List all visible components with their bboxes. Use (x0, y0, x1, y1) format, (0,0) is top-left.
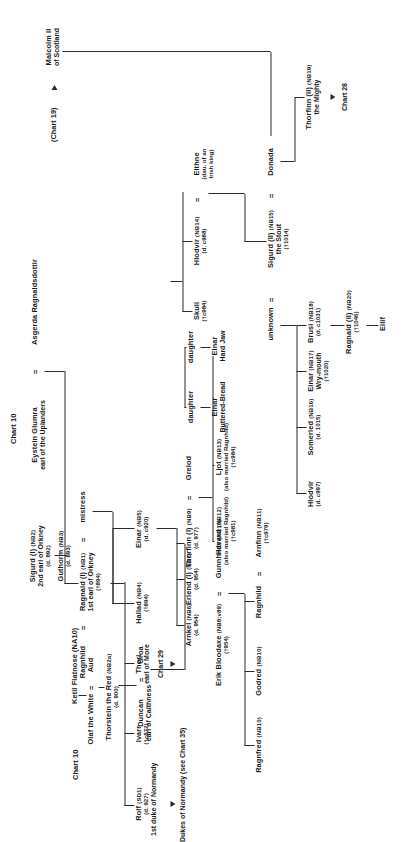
marriage-eq-olaf: = (86, 686, 95, 690)
person-sigurd-1: Sigurd (I) (NB2) 2nd earl of Orkney (d. … (28, 518, 51, 594)
person-brusi: Brusi (NB18) (d. c1031) (306, 292, 321, 352)
person-hlodvir-997: Hlodvir (d. c997) (306, 464, 321, 524)
marriage-eq-donada: = (266, 194, 275, 198)
marriage-eq-ragnhild2: = (254, 572, 263, 576)
person-arnfinn: Arnfinn (NB11) (†c979) (254, 500, 269, 566)
person-aud: Aud (86, 650, 94, 680)
person-sigurd-ii: Sigurd (II) (NB15) the Stout (†1014) (266, 202, 289, 276)
person-havard: Havard (NB12) (also married Ragnhild) (†… (214, 488, 236, 574)
person-skuli: Skuli (†c984) (192, 284, 207, 338)
person-eystein: Eystein Glumra earl of the Uplanders (30, 380, 46, 490)
arrow-right-icon-chart19 (51, 85, 57, 90)
person-grelod: Grelod (184, 446, 192, 490)
person-daughter-1: daughter (186, 380, 194, 434)
marriage-eq-mistress: = (78, 538, 87, 542)
person-asgerda: Asgerda Ragnaldsdottir (30, 242, 38, 362)
person-hallad: Hallad (NB4) (†894) (134, 572, 149, 634)
person-somerled: Somerled (NB16) (d. 1015) (306, 392, 321, 462)
person-eilif: Eilif (378, 304, 386, 344)
marriage-eq-erik: = (214, 592, 223, 596)
person-donada: Donada (266, 138, 274, 186)
chart-ref-chart10-left: Chart 10 (70, 750, 79, 780)
person-rolf: Rolf (SD1) (d. 927) 1st duke of Normandy (134, 772, 157, 836)
person-groa: Groa (136, 638, 144, 672)
person-thorstein-red: Thorstein the Red (NB2a) (d. 900) (104, 652, 119, 742)
marriage-eq-ragnhild0: = (78, 626, 87, 630)
person-olaf-white: Olaf the White (86, 690, 94, 748)
person-ragnfred: Ragnfred (NB10) (254, 710, 262, 780)
person-unknown: unknown (266, 298, 274, 350)
person-mistress: mistress (78, 482, 86, 532)
chart-ref-dukes-normandy: Dukes of Normandy (see Chart 35) (178, 766, 186, 842)
person-ragnhild-2: Ragnhild (254, 576, 262, 628)
person-duncan: Duncan earl of Caithness (136, 682, 152, 744)
genealogy-chart: Chart 10 Chart 10 Ketil Flatnose (NA10) … (0, 0, 417, 842)
person-eithne: Eithne (dau. of an Irish king) (192, 136, 214, 192)
person-einar-hard-jaw: Einar Hard Jaw (210, 318, 226, 374)
person-godred: Godred (NB10) (254, 638, 262, 704)
marriage-eq-hlodvir: = (192, 198, 201, 202)
person-malcolm-ii: Malcolm II of Scotland (44, 14, 60, 80)
arrow-down-icon-chart28 (330, 94, 335, 100)
person-thorfinn-ii: Thorfinn (II) (NB19) the Mighty (304, 58, 320, 136)
person-erik-bloodaxe: Erik Bloodaxe (NB8;v89) (†954) (214, 598, 229, 692)
marriage-eq-eystein: = (30, 370, 39, 374)
chart-ref-chart29: Chart 29 (156, 632, 164, 696)
marriage-eq-thorfinn1: = (184, 496, 193, 500)
person-thorfinn-1: Thorfinn (I) (NB9) (d. 977) (184, 500, 199, 576)
arrow-down-icon-thori (170, 661, 175, 667)
marriage-eq-duncan: = (136, 678, 145, 682)
chart-ref-chart19: (Chart 19) (48, 108, 57, 143)
person-einar-buttered-bread: Einar Buttered-Bread (210, 376, 226, 438)
chart-title: Chart 10 (8, 414, 17, 444)
person-ragnald-ii: Ragnald (II) (NB20) (†1046) (344, 286, 359, 358)
person-guthorm: Guthorm (NB3) (d. 893) (56, 522, 71, 590)
person-hlodvir-nb14: Hlodvir (NB14) (d. c988) (192, 204, 207, 278)
person-ragnald-1: Ragnald (I) (NB1) 1st earl of Orkney (†8… (78, 544, 101, 620)
person-einar-nb5: Einar (NB5) (d. c920) (134, 498, 149, 560)
arrow-down-icon-rolf (170, 801, 175, 807)
chart-ref-chart28: Chart 28 (340, 66, 348, 128)
